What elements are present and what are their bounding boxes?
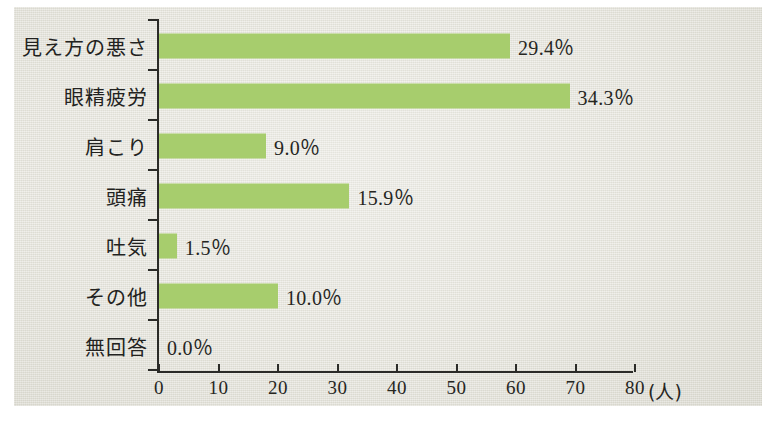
bar-value-label: 10.0％ [286,282,343,311]
x-tick [456,364,458,372]
bar-row: その他10.0％ [14,271,762,321]
bar-value-label: 1.5％ [185,232,231,261]
x-tick-label: 20 [268,377,288,399]
category-label: その他 [85,282,148,311]
bar-row: 眼精疲労34.3％ [14,71,762,121]
bar-value-label: 9.0％ [274,132,320,161]
x-axis-line [157,371,633,373]
bar [159,234,177,259]
x-tick-label: 70 [566,377,586,399]
bar-row: 頭痛15.9％ [14,171,762,221]
category-label: 見え方の悪さ [22,32,148,61]
plot-area: 見え方の悪さ29.4％眼精疲労34.3％肩こり9.0％頭痛15.9％吐気1.5％… [14,7,762,406]
bar [159,84,570,109]
y-tick [148,369,157,371]
bar-row: 肩こり9.0％ [14,121,762,171]
bar-row: 無回答0.0％ [14,321,762,371]
x-tick-label: 0 [154,377,164,399]
x-tick [575,364,577,372]
x-tick-label: 40 [387,377,407,399]
y-tick [148,219,157,221]
x-tick-label: 60 [506,377,526,399]
chart-panel: 見え方の悪さ29.4％眼精疲労34.3％肩こり9.0％頭痛15.9％吐気1.5％… [14,7,762,406]
bar [159,184,349,209]
bar [159,34,510,59]
bar-value-label: 34.3％ [578,82,635,111]
bar [159,134,266,159]
x-tick [634,364,636,372]
bar-row: 見え方の悪さ29.4％ [14,21,762,71]
y-tick [148,169,157,171]
x-tick-label: 10 [209,377,229,399]
bar-value-label: 15.9％ [357,182,414,211]
x-tick [515,364,517,372]
category-label: 眼精疲労 [64,82,148,111]
x-tick [158,364,160,372]
bar [159,284,278,309]
bar-value-label: 0.0％ [167,332,213,361]
x-tick [218,364,220,372]
y-tick [148,319,157,321]
chart-page: 見え方の悪さ29.4％眼精疲労34.3％肩こり9.0％頭痛15.9％吐気1.5％… [0,0,781,423]
y-tick [148,69,157,71]
category-label: 無回答 [85,332,148,361]
x-tick-label: 80 [625,377,645,399]
x-tick [337,364,339,372]
x-tick [396,364,398,372]
x-tick-label: 30 [328,377,348,399]
x-axis-unit-label: (人) [648,377,682,404]
category-label: 吐気 [106,232,148,261]
category-label: 頭痛 [106,182,148,211]
y-tick [148,119,157,121]
x-tick-label: 50 [447,377,467,399]
y-tick [148,269,157,271]
bar-row: 吐気1.5％ [14,221,762,271]
bar-value-label: 29.4％ [518,32,575,61]
y-tick [148,19,157,21]
category-label: 肩こり [85,132,148,161]
x-tick [277,364,279,372]
